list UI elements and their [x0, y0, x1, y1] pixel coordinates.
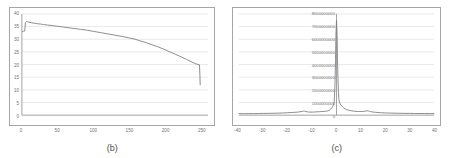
plot-area-c [233, 8, 440, 125]
x-tick-label: 50 [55, 128, 60, 133]
x-tick-label: 30 [407, 128, 412, 133]
figure-root: 0510152025303540 050100150200250 (b) 010… [0, 0, 449, 158]
x-tick-label: -10 [308, 128, 315, 133]
x-tick-label: 150 [126, 128, 134, 133]
y-tick-label: 4000000000 [275, 62, 335, 67]
y-tick-label: 0 [275, 114, 335, 119]
y-tick-label: 35 [0, 23, 19, 28]
y-tick-label: 10 [0, 88, 19, 93]
chart-b-canvas [10, 8, 214, 125]
data-series-line [22, 21, 200, 84]
x-tick-label: -30 [259, 128, 266, 133]
x-tick-label: 200 [162, 128, 170, 133]
chart-c-canvas [233, 8, 440, 125]
x-tick-label: 0 [20, 128, 23, 133]
y-tick-label: 30 [0, 36, 19, 41]
y-tick-label: 20 [0, 62, 19, 67]
y-tick-label: 8000000000 [275, 11, 335, 16]
x-tick-label: 10 [358, 128, 363, 133]
y-tick-label: 5000000000 [275, 49, 335, 54]
y-tick-label: 5 [0, 101, 19, 106]
plot-frame-c [232, 7, 441, 126]
x-tick-label: -20 [283, 128, 290, 133]
y-tick-label: 3000000000 [275, 75, 335, 80]
caption-b: (b) [0, 143, 225, 153]
plot-area-b [10, 8, 214, 125]
x-tick-label: 20 [383, 128, 388, 133]
x-tick-label: 100 [89, 128, 97, 133]
y-tick-label: 25 [0, 49, 19, 54]
y-tick-label: 40 [0, 11, 19, 16]
caption-c: (c) [225, 143, 449, 153]
y-tick-label: 6000000000 [275, 36, 335, 41]
x-tick-label: 250 [198, 128, 206, 133]
panel-b: 0510152025303540 050100150200250 (b) [0, 0, 225, 158]
y-tick-label: 1000000000 [275, 101, 335, 106]
y-tick-label: 7000000000 [275, 23, 335, 28]
y-tick-label: 15 [0, 75, 19, 80]
plot-frame-b [9, 7, 215, 126]
x-tick-label: 0 [335, 128, 338, 133]
x-tick-label: -40 [234, 128, 241, 133]
x-tick-label: 40 [432, 128, 437, 133]
y-tick-label: 2000000000 [275, 88, 335, 93]
panel-c: 0100000000020000000003000000000400000000… [225, 0, 449, 158]
y-tick-label: 0 [0, 114, 19, 119]
